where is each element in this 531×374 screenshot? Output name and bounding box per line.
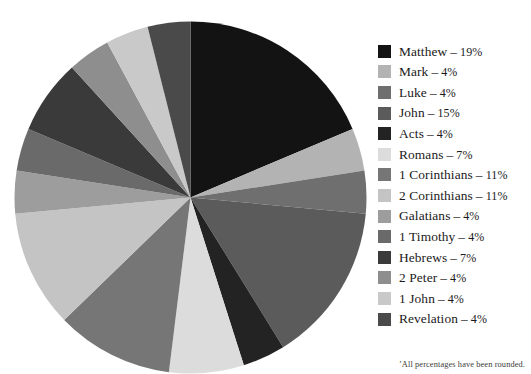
- legend-item-label: Hebrews: [399, 250, 447, 265]
- pie-chart-graphic: [14, 21, 367, 374]
- legend-item-text: 1 Corinthians–11%: [399, 168, 508, 181]
- legend-item: John–15%: [378, 103, 528, 124]
- footnote-text: ’All percentages have been rounded.: [399, 360, 525, 369]
- legend-item-text: Mark–4%: [399, 65, 457, 78]
- legend-color-swatch: [378, 45, 391, 58]
- legend-item-label: 1 Timothy: [399, 229, 455, 244]
- legend-item: 1 John–4%: [378, 288, 528, 309]
- legend-item-text: John–15%: [399, 106, 460, 119]
- legend-separator: –: [427, 85, 440, 100]
- legend-color-swatch: [378, 127, 391, 140]
- legend-item-text: Hebrews–7%: [399, 251, 476, 264]
- legend-item-label: 2 Peter: [399, 270, 437, 285]
- legend-item: 2 Peter–4%: [378, 268, 528, 289]
- legend-item-value: 4%: [448, 292, 464, 306]
- legend-item-value: 11%: [486, 168, 508, 182]
- legend-item-text: Revelation–4%: [399, 312, 487, 325]
- legend-item: 2 Corinthians–11%: [378, 185, 528, 206]
- legend-item: Galatians–4%: [378, 206, 528, 227]
- legend-item-text: Matthew–19%: [399, 45, 482, 58]
- legend-item-value: 4%: [463, 209, 479, 223]
- legend-item-value: 4%: [441, 65, 457, 79]
- pie-slice-group: [14, 22, 366, 374]
- legend-separator: –: [473, 188, 486, 203]
- legend-item: Hebrews–7%: [378, 247, 528, 268]
- legend-item-value: 7%: [460, 251, 476, 265]
- legend-color-swatch: [378, 65, 391, 78]
- legend-color-swatch: [378, 210, 391, 223]
- legend-item-label: Matthew: [399, 44, 447, 59]
- legend-item-value: 4%: [468, 230, 484, 244]
- legend-item-value: 4%: [471, 312, 487, 326]
- legend-item-label: John: [399, 105, 425, 120]
- legend-item: 1 Corinthians–11%: [378, 165, 528, 186]
- pie-chart-figure: Matthew–19%Mark–4%Luke–4%John–15%Acts–4%…: [0, 0, 531, 374]
- legend-item-label: 1 Corinthians: [399, 167, 473, 182]
- legend-separator: –: [428, 64, 441, 79]
- legend-item-value: 4%: [437, 127, 453, 141]
- legend-item-value: 4%: [450, 271, 466, 285]
- legend-item-value: 4%: [440, 86, 456, 100]
- legend-color-swatch: [378, 292, 391, 305]
- legend-item-label: Mark: [399, 64, 428, 79]
- legend-color-swatch: [378, 107, 391, 120]
- legend-separator: –: [473, 167, 486, 182]
- legend-item-label: Acts: [399, 126, 424, 141]
- legend-color-swatch: [378, 189, 391, 202]
- legend-item-value: 15%: [438, 106, 460, 120]
- legend-separator: –: [444, 147, 457, 162]
- legend-item-text: Luke–4%: [399, 86, 456, 99]
- legend-item: 1 Timothy–4%: [378, 226, 528, 247]
- legend-color-swatch: [378, 168, 391, 181]
- legend-item: Matthew–19%: [378, 41, 528, 62]
- legend-separator: –: [450, 208, 463, 223]
- legend-separator: –: [458, 311, 471, 326]
- legend-separator: –: [455, 229, 468, 244]
- legend-item-text: 2 Corinthians–11%: [399, 189, 508, 202]
- legend-color-swatch: [378, 251, 391, 264]
- legend-color-swatch: [378, 86, 391, 99]
- legend-item-text: 1 Timothy–4%: [399, 230, 484, 243]
- legend-color-swatch: [378, 148, 391, 161]
- legend-item: Acts–4%: [378, 123, 528, 144]
- legend-item: Mark–4%: [378, 62, 528, 83]
- legend-separator: –: [435, 291, 448, 306]
- legend-item-text: Acts–4%: [399, 127, 453, 140]
- legend-item-label: Revelation: [399, 311, 458, 326]
- legend-color-swatch: [378, 313, 391, 326]
- legend-separator: –: [424, 126, 437, 141]
- legend-separator: –: [425, 105, 438, 120]
- legend-item-value: 11%: [486, 189, 508, 203]
- legend-item-label: Luke: [399, 85, 427, 100]
- legend-color-swatch: [378, 271, 391, 284]
- legend-separator: –: [447, 44, 460, 59]
- legend-item: Romans–7%: [378, 144, 528, 165]
- legend-item-text: Romans–7%: [399, 148, 473, 161]
- legend-item-value: 7%: [456, 148, 472, 162]
- legend-item-label: 2 Corinthians: [399, 188, 473, 203]
- legend-item-label: Galatians: [399, 208, 450, 223]
- legend-item: Revelation–4%: [378, 309, 528, 330]
- legend-item-text: 2 Peter–4%: [399, 271, 466, 284]
- pie-svg: [14, 21, 367, 374]
- chart-legend: Matthew–19%Mark–4%Luke–4%John–15%Acts–4%…: [378, 41, 528, 329]
- legend-separator: –: [437, 270, 450, 285]
- legend-item-text: Galatians–4%: [399, 209, 479, 222]
- legend-separator: –: [447, 250, 460, 265]
- legend-item-text: 1 John–4%: [399, 292, 464, 305]
- legend-item-label: Romans: [399, 147, 444, 162]
- legend-item: Luke–4%: [378, 82, 528, 103]
- legend-color-swatch: [378, 230, 391, 243]
- legend-item-label: 1 John: [399, 291, 435, 306]
- legend-item-value: 19%: [460, 45, 482, 59]
